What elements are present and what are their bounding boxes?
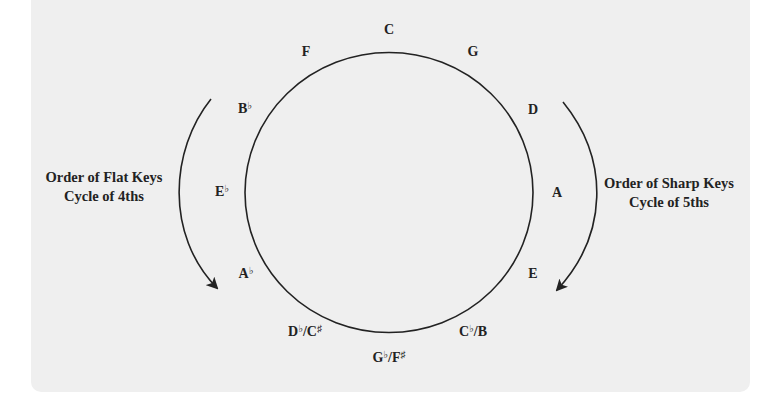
key-root: A — [239, 266, 249, 281]
key-label-ab: A♭ — [239, 266, 254, 281]
key-label-eb: E♭ — [215, 184, 229, 199]
key-label-gb-fs: G♭/F♯ — [372, 350, 405, 365]
key-label-g: G — [468, 45, 479, 59]
key-root: B — [238, 101, 247, 116]
key-root: G — [468, 44, 479, 59]
key-root: E — [528, 266, 537, 281]
key-root: C — [459, 324, 469, 339]
key-root: G — [372, 350, 383, 365]
sharp-keys-caption-line2: Cycle of 5ths — [604, 193, 734, 212]
key-alt: /C — [303, 324, 317, 339]
key-root: E — [215, 184, 224, 199]
key-label-cb-b: C♭/B — [459, 324, 487, 339]
key-root: A — [552, 185, 562, 200]
key-root: C — [384, 22, 394, 37]
sharp-keys-caption-line1: Order of Sharp Keys — [604, 174, 734, 193]
key-label-bb: B♭ — [238, 101, 252, 116]
sharp-keys-arrow — [557, 102, 597, 290]
key-label-e: E — [528, 267, 537, 281]
key-acc: ♭ — [224, 183, 229, 194]
key-alt-acc: ♯ — [317, 323, 322, 334]
key-root: D — [288, 324, 298, 339]
flat-keys-arrow — [179, 99, 217, 288]
flat-keys-caption-line2: Cycle of 4ths — [46, 187, 163, 206]
key-acc: ♭ — [247, 100, 252, 111]
key-circle — [245, 53, 533, 333]
key-root: F — [302, 44, 311, 59]
key-alt: /B — [474, 324, 487, 339]
sharp-keys-caption: Order of Sharp Keys Cycle of 5ths — [604, 174, 734, 212]
key-alt: /F — [388, 350, 400, 365]
key-label-a: A — [552, 186, 562, 200]
flat-keys-caption-line1: Order of Flat Keys — [46, 168, 163, 187]
key-label-f: F — [302, 45, 311, 59]
key-acc: ♭ — [249, 265, 254, 276]
key-label-c: C — [384, 23, 394, 37]
flat-keys-caption: Order of Flat Keys Cycle of 4ths — [46, 168, 163, 206]
key-alt-acc: ♯ — [401, 349, 406, 360]
key-label-d: D — [528, 103, 538, 117]
key-root: D — [528, 102, 538, 117]
key-label-db-cs: D♭/C♯ — [288, 324, 322, 339]
